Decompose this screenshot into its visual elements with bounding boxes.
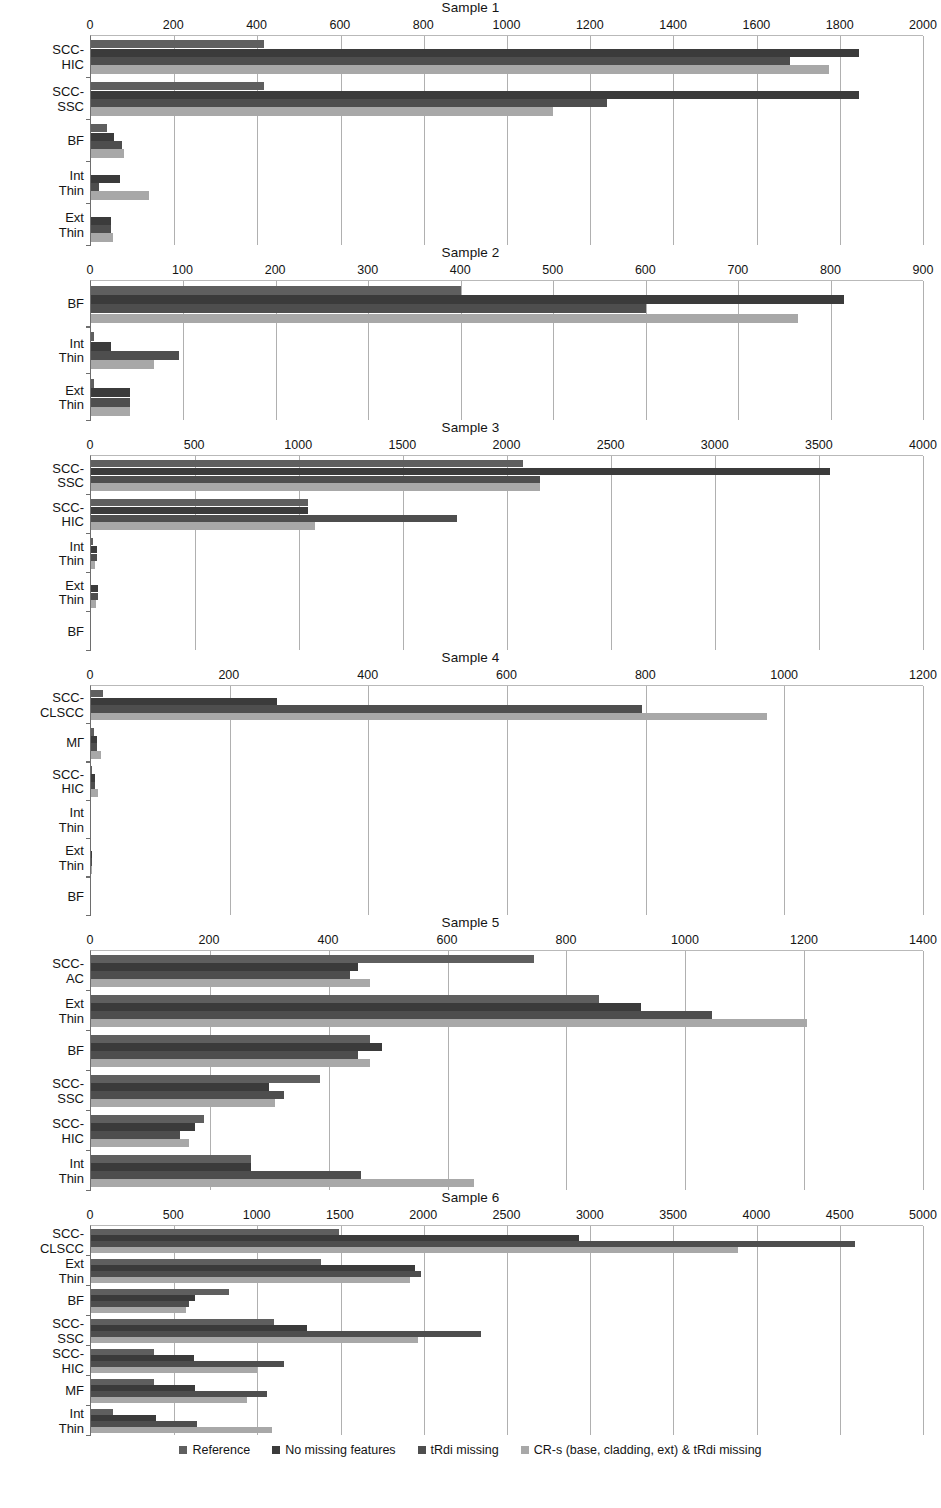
x-tick-label: 200 — [218, 668, 239, 683]
plot-area: SCC- CLSCCMГSCC- HICInt ThinExt ThinBF — [90, 685, 923, 915]
bar — [91, 546, 97, 554]
x-axis: 0100200300400500600700800900 — [90, 263, 923, 280]
category-group: SCC- SSC — [91, 78, 923, 120]
chart-title: Sample 6 — [0, 1190, 941, 1208]
bar — [91, 40, 264, 48]
bar — [91, 751, 101, 758]
bar — [91, 554, 97, 562]
category-group: SCC- SSC — [91, 456, 923, 495]
x-tick-label: 0 — [87, 438, 94, 453]
bar — [91, 736, 97, 743]
category-label: Ext Thin — [0, 1257, 84, 1286]
x-tick-label: 1800 — [826, 18, 854, 33]
x-tick-label: 1400 — [909, 933, 937, 948]
category-group: Ext Thin — [91, 204, 923, 246]
category-group: SCC- CLSCC — [91, 686, 923, 724]
x-tick-label: 1000 — [493, 18, 521, 33]
bar — [91, 499, 308, 507]
x-tick-label: 5000 — [909, 1208, 937, 1223]
category-group: SCC- CLSCC — [91, 1226, 923, 1256]
bar — [91, 1349, 154, 1355]
bar — [91, 342, 111, 351]
category-label: SCC- SSC — [0, 1317, 84, 1346]
chart-title: Sample 1 — [0, 0, 941, 18]
bar — [91, 483, 540, 491]
category-label: SCC- SSC — [0, 85, 84, 114]
bar — [91, 743, 97, 750]
x-tick-label: 800 — [635, 668, 656, 683]
bar — [91, 468, 830, 476]
x-tick-label: 4500 — [826, 1208, 854, 1223]
bar — [91, 295, 844, 304]
bar — [91, 789, 98, 796]
bar — [91, 766, 92, 773]
bar — [91, 183, 99, 191]
category-group: Ext Thin — [91, 991, 923, 1031]
x-tick-label: 600 — [437, 933, 458, 948]
bar — [91, 1415, 156, 1421]
bar — [91, 600, 96, 608]
bar — [91, 1099, 275, 1107]
plot-area: SCC- CLSCCExt ThinBFSCC- SSCSCC- HICMFIn… — [90, 1225, 923, 1435]
x-tick-label: 500 — [542, 263, 563, 278]
legend-label: Reference — [192, 1443, 250, 1457]
gridline — [923, 281, 924, 420]
x-tick-label: 600 — [329, 18, 350, 33]
category-group: Int Thin — [91, 1151, 923, 1191]
x-tick-label: 2000 — [493, 438, 521, 453]
bar — [91, 1163, 251, 1171]
bar — [91, 1011, 712, 1019]
bar — [91, 522, 315, 530]
x-tick-label: 2500 — [493, 1208, 521, 1223]
category-group: SCC- HIC — [91, 1111, 923, 1151]
bar — [91, 1325, 307, 1331]
category-group: MF — [91, 1376, 923, 1406]
plot-area: BFInt ThinExt Thin — [90, 280, 923, 420]
category-group: SCC- AC — [91, 951, 923, 991]
bar — [91, 1295, 195, 1301]
x-tick-label: 3500 — [805, 438, 833, 453]
category-label: SCC- HIC — [0, 43, 84, 72]
x-tick-label: 500 — [163, 1208, 184, 1223]
bar — [91, 1139, 189, 1147]
category-label: MF — [0, 1384, 84, 1399]
legend-label: No missing features — [285, 1443, 395, 1457]
bar — [91, 191, 149, 199]
category-label: SCC- HIC — [0, 500, 84, 529]
category-group: Ext Thin — [91, 573, 923, 612]
y-axis-tick — [86, 1435, 91, 1436]
x-tick-label: 2000 — [409, 1208, 437, 1223]
x-tick-label: 100 — [172, 263, 193, 278]
x-tick-label: 800 — [413, 18, 434, 33]
bar — [91, 728, 94, 735]
x-tick-label: 400 — [318, 933, 339, 948]
gridline — [923, 1226, 924, 1435]
bar — [91, 141, 122, 149]
bar — [91, 1355, 194, 1361]
bar — [91, 107, 553, 115]
bar — [91, 217, 111, 225]
category-label: SCC- SSC — [0, 1077, 84, 1106]
category-group: BF — [91, 1286, 923, 1316]
plot-area: SCC- SSCSCC- HICInt ThinExt ThinBF — [90, 455, 923, 650]
figure-sheet: Sample 102004006008001000120014001600180… — [0, 0, 941, 1508]
bar — [91, 1421, 197, 1427]
bar — [91, 1427, 272, 1433]
bar — [91, 585, 98, 593]
bar — [91, 1229, 339, 1235]
bar — [91, 233, 113, 241]
bar — [91, 1319, 274, 1325]
category-label: Ext Thin — [0, 578, 84, 607]
chart-title: Sample 4 — [0, 650, 941, 668]
category-label: Ext Thin — [0, 844, 84, 873]
category-label: Int Thin — [0, 539, 84, 568]
bar — [91, 1265, 415, 1271]
bar — [91, 1179, 474, 1187]
category-label: BF — [0, 134, 84, 149]
legend-swatch-icon — [272, 1446, 280, 1454]
category-group: MГ — [91, 724, 923, 762]
category-group: SCC- HIC — [91, 36, 923, 78]
category-group: Ext Thin — [91, 839, 923, 877]
bar — [91, 955, 534, 963]
category-label: Int Thin — [0, 1157, 84, 1186]
